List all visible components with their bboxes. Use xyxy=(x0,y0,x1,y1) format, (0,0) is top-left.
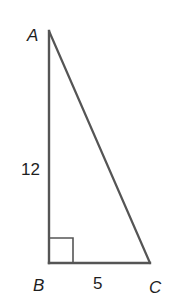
right-angle-marker xyxy=(49,238,73,263)
vertex-label-a: A xyxy=(27,27,38,44)
side-length-ab: 12 xyxy=(21,161,40,178)
side-length-bc: 5 xyxy=(93,275,102,292)
side-ac-hypotenuse xyxy=(49,31,150,263)
triangle-diagram xyxy=(0,0,169,306)
vertex-label-b: B xyxy=(33,277,44,294)
vertex-label-c: C xyxy=(149,279,161,296)
